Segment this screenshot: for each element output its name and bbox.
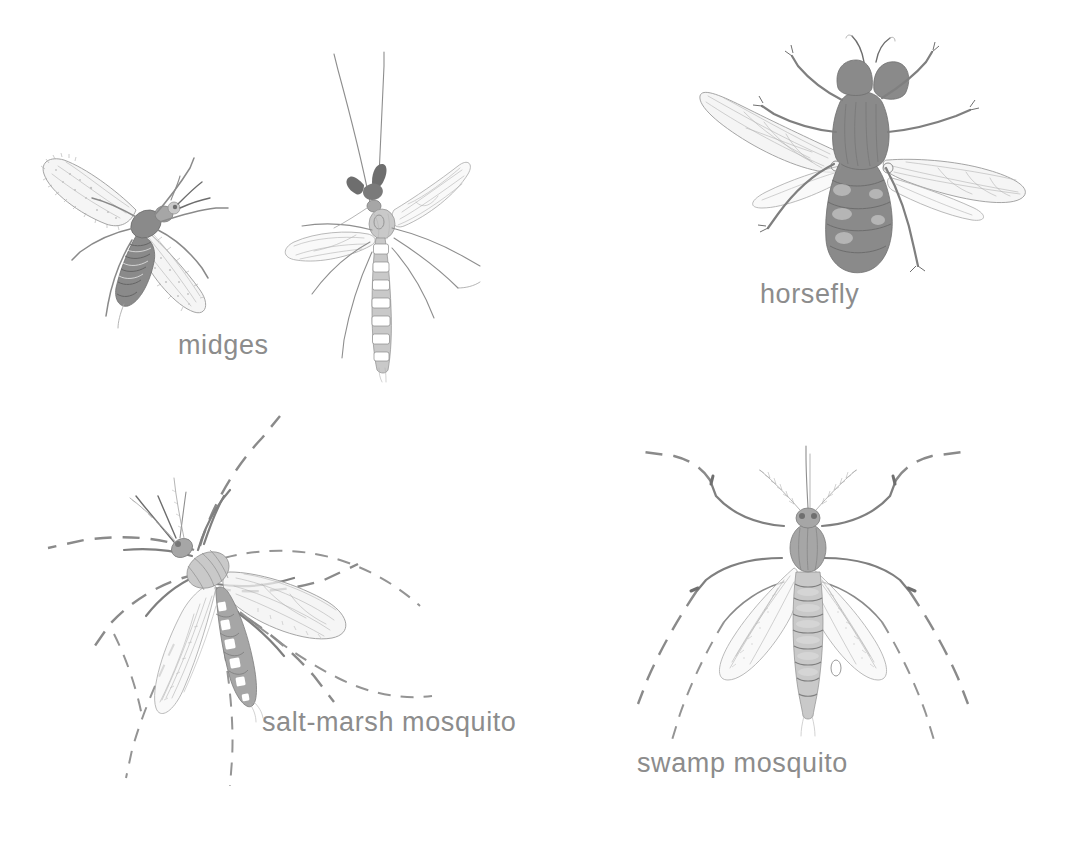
midge-thorax xyxy=(369,209,395,239)
salt-marsh-mosquito-illustration xyxy=(18,398,518,818)
midge-hairy-winged-illustration xyxy=(28,118,258,328)
swamp-mosquito-head xyxy=(759,446,857,528)
midge-thorax-head xyxy=(125,176,210,244)
salt-marsh-mosquito-svg xyxy=(18,398,518,818)
midge-head xyxy=(346,164,386,212)
swamp-mosquito-illustration xyxy=(598,432,1018,772)
midge-slender-illustration xyxy=(252,52,502,382)
caption-midges: midges xyxy=(178,332,269,359)
salt-marsh-mosquito-antennae xyxy=(130,478,184,542)
salt-marsh-mosquito-wing-lower xyxy=(155,584,216,713)
horsefly-wing-left xyxy=(700,92,840,172)
caption-horsefly: horsefly xyxy=(760,281,859,308)
midge-wing-right xyxy=(392,162,471,227)
midge-slender-svg xyxy=(252,52,502,382)
midge-hairy-winged-svg xyxy=(28,118,258,328)
swamp-mosquito-thorax xyxy=(790,524,826,572)
horsefly-illustration xyxy=(700,28,1050,278)
swamp-mosquito-svg xyxy=(598,432,1018,772)
caption-swamp-mosquito: swamp mosquito xyxy=(637,750,848,777)
midge-wing-upper-left xyxy=(41,153,136,230)
horsefly-head xyxy=(837,35,909,99)
caption-salt-marsh-mosquito: salt-marsh mosquito xyxy=(262,709,516,736)
midge-abdomen xyxy=(116,236,155,306)
swamp-mosquito-wing-left xyxy=(719,568,798,680)
midge-abdomen-banded xyxy=(372,238,391,382)
horsefly-thorax xyxy=(833,92,890,170)
swamp-mosquito-abdomen xyxy=(793,572,823,736)
horsefly-svg xyxy=(700,28,1050,278)
insect-illustration-plate: midges horsefly salt-marsh mosquito swam… xyxy=(0,0,1076,858)
swamp-mosquito-halteres xyxy=(831,660,841,676)
